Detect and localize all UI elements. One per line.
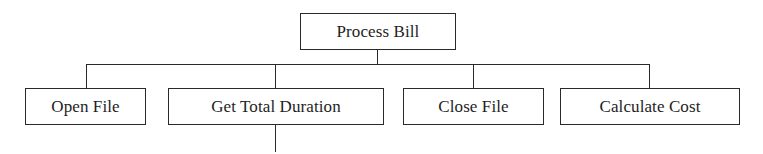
node-calculate-cost: Calculate Cost xyxy=(560,88,740,125)
node-close-file: Close File xyxy=(403,88,544,125)
node-label: Open File xyxy=(51,97,119,117)
connector-get-total-duration xyxy=(275,64,276,88)
connector-root xyxy=(377,50,378,65)
node-process-bill: Process Bill xyxy=(300,13,456,50)
connector-calculate-cost xyxy=(649,64,650,88)
connector-bus xyxy=(86,64,650,65)
connector-open-file xyxy=(86,64,87,88)
connector-close-file xyxy=(473,64,474,88)
node-label: Close File xyxy=(438,97,508,117)
node-label: Get Total Duration xyxy=(211,97,341,117)
node-label: Process Bill xyxy=(337,22,420,42)
node-open-file: Open File xyxy=(25,88,146,125)
node-get-total-duration: Get Total Duration xyxy=(168,88,384,125)
node-label: Calculate Cost xyxy=(599,97,700,117)
connector-get-total-duration-below xyxy=(275,125,276,152)
